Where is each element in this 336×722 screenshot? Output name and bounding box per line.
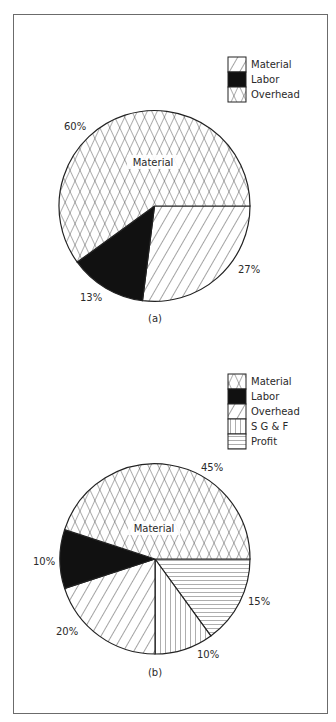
legend-b-label-overhead: Overhead [251, 406, 300, 417]
legend-b-label-sgf: S G & F [251, 421, 288, 432]
pie-chart-b: Material 45% 10% 20% 10% 15% (b) [33, 462, 270, 678]
panel-label-a: (a) [148, 313, 162, 324]
legend-b-swatch-labor [228, 389, 246, 404]
pct-b-overhead: 20% [56, 626, 78, 637]
legend-a-label-material: Material [251, 59, 292, 70]
pct-b-sgf: 10% [197, 649, 219, 660]
legend-a-swatch-material [228, 57, 246, 72]
pct-a-material: 27% [238, 264, 260, 275]
slice-a-material [143, 206, 251, 301]
legend-b-swatch-overhead [228, 404, 246, 419]
panel-label-b: (b) [148, 667, 162, 678]
pct-a-overhead: 60% [64, 121, 86, 132]
pct-b-profit: 15% [248, 596, 270, 607]
legend-b-swatch-profit [228, 434, 246, 449]
legend-b-swatch-sgf [228, 419, 246, 434]
legend-b-label-profit: Profit [251, 436, 277, 447]
pie-chart-a: Material 60% 13% 27% (a) [59, 111, 260, 324]
legend-b: Material Labor Overhead S G & F Profit [228, 374, 300, 449]
legend-b-label-labor: Labor [251, 391, 280, 402]
legend-a-label-overhead: Overhead [251, 89, 300, 100]
slice-b-inner-label: Material [134, 523, 175, 534]
legend-a: Material Labor Overhead [228, 57, 300, 102]
pct-b-labor: 10% [33, 556, 55, 567]
pct-a-labor: 13% [80, 292, 102, 303]
slice-a-inner-label: Material [133, 157, 174, 168]
pct-b-material: 45% [201, 462, 223, 473]
legend-b-label-material: Material [251, 376, 292, 387]
figure-canvas: Material 60% 13% 27% (a) Material Labor … [0, 0, 336, 722]
legend-a-label-labor: Labor [251, 74, 280, 85]
legend-a-swatch-labor [228, 72, 246, 87]
